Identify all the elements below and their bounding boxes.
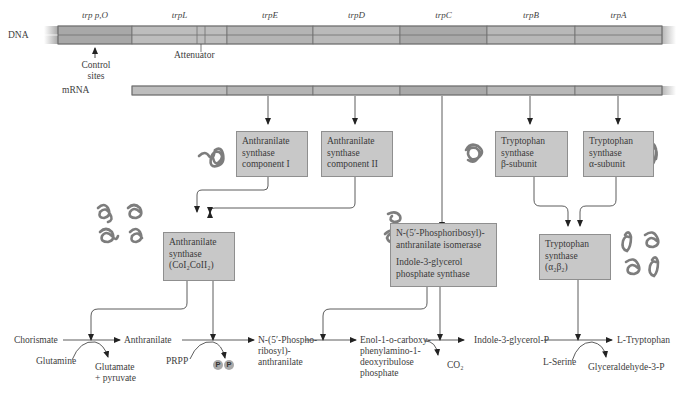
gene-trpD: trpD: [313, 10, 400, 20]
anthranilate-synthase-complex-box: Anthranilatesynthase(CoI₂CoII₂): [163, 232, 235, 281]
gene-trp-po: trp p,O: [58, 10, 132, 20]
cdrp-label: Enol-1-o-carboxy-phenylamino-1-deoxyribu…: [360, 335, 431, 379]
gene-trpE: trpE: [227, 10, 313, 20]
mrna-segment: [227, 86, 313, 95]
indole-3-glycerol-p-label: Indole-3-glycerol-P: [474, 335, 549, 346]
glutamate-pyruvate-label: Glutamate+ pyruvate: [95, 362, 136, 384]
prai-igps-box: N-(5′-Phosphoribosyl)-anthranilate isome…: [390, 223, 497, 287]
gene-trpL: trpL: [132, 10, 227, 20]
npra-label: N-(5′-Phospho-ribosyl)-anthranilate: [258, 335, 317, 368]
attenuator-label: Attenuator: [174, 50, 215, 61]
co2-label: CO₂: [447, 360, 464, 371]
pyrophosphate-p2-icon: P: [224, 360, 234, 370]
mrna-segment: [313, 86, 400, 95]
gene-trpC: trpC: [400, 10, 487, 20]
mrna-bar: [132, 86, 676, 95]
dna-bar: [44, 26, 676, 44]
chorismate-label: Chorismate: [14, 335, 58, 346]
tryptophan-synthase-alpha-box: Tryptophansynthaseα-subunit: [583, 131, 654, 177]
mrna-segment: [132, 86, 227, 95]
mrna-segment: [575, 86, 662, 95]
gene-trpA: trpA: [575, 10, 662, 20]
pyrophosphate-p1-icon: P: [213, 360, 223, 370]
anthranilate-synthase-component-1-box: Anthranilatesynthasecomponent I: [236, 131, 308, 177]
anthranilate-label: Anthranilate: [124, 335, 171, 346]
tryptophan-synthase-complex-box: Tryptophansynthase(α₂β₂): [539, 234, 611, 280]
mrna-segment: [487, 86, 575, 95]
l-serine-label: L-Serine: [543, 357, 576, 368]
tryptophan-synthase-beta-box: Tryptophansynthaseβ-subunit: [495, 131, 568, 177]
mrna-segment: [400, 86, 487, 95]
dna-label: DNA: [8, 30, 29, 41]
glyceraldehyde-3-p-label: Glyceraldehyde-3-P: [588, 362, 665, 373]
mrna-label: mRNA: [62, 85, 89, 96]
control-sites-label: Controlsites: [78, 60, 114, 82]
prpp-label: PRPP: [166, 356, 188, 367]
gene-trpB: trpB: [487, 10, 575, 20]
anthranilate-synthase-component-2-box: Anthranilatesynthasecomponent II: [321, 131, 393, 177]
glutamine-label: Glutamine: [36, 356, 76, 367]
l-tryptophan-label: L-Tryptophan: [617, 335, 670, 346]
